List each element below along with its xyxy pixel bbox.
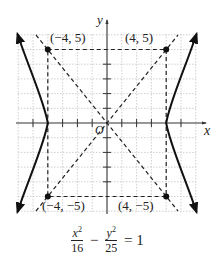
point-label-br: (4, −5) (118, 198, 154, 213)
point-label-tr: (4, 5) (125, 30, 153, 45)
point-label-tl: (−4, 5) (50, 30, 86, 45)
origin-label: O (95, 123, 104, 137)
point-label-bl: (−4, −5) (42, 198, 85, 213)
equals-one: = 1 (124, 232, 144, 249)
y-axis-label: y (95, 12, 103, 27)
x-axis-label: x (203, 123, 211, 138)
minus-sign: − (90, 232, 98, 249)
fraction-x: x2 16 (71, 226, 83, 254)
fraction-y: y2 25 (105, 226, 117, 254)
hyperbola-graph: (−4, 5) (4, 5) (−4, −5) (4, −5) y x O (0, 0, 218, 226)
equation: x2 16 − y2 25 = 1 (0, 226, 218, 254)
